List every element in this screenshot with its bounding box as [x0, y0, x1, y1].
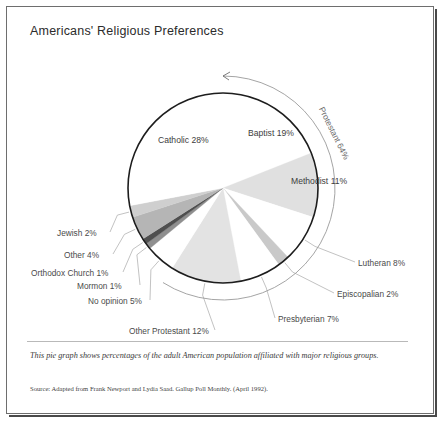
leader-line-jewish: [110, 212, 129, 232]
slice-label-methodist: Methodist 11%: [291, 176, 347, 186]
leader-line-no-opinion: [150, 261, 159, 300]
slice-label-lutheran: Lutheran 8%: [358, 258, 405, 268]
slice-label-jewish: Jewish 2%: [57, 228, 97, 238]
leader-line-lutheran: [305, 240, 355, 262]
pie-slice-catholic: [128, 93, 223, 206]
caption-divider: [27, 341, 408, 342]
figure-caption: This pie graph shows percentages of the …: [30, 350, 405, 362]
leader-line-presbyterian: [262, 277, 276, 318]
slice-label-presbyterian: Presbyterian 7%: [278, 314, 339, 324]
protestant-bracket-label: Protestant 64%: [317, 105, 352, 161]
leader-line-mormon: [137, 248, 147, 286]
slice-label-other: Other 4%: [64, 250, 99, 260]
slice-label-no-opinion: No opinion 5%: [88, 296, 142, 306]
leader-line-other-protestant: [203, 283, 215, 330]
figure-page: Americans' Religious Preferences Protest…: [0, 0, 442, 422]
slice-label-baptist: Baptist 19%: [248, 128, 294, 138]
figure-source: Source: Adapted from Frank Newport and L…: [30, 385, 405, 392]
leader-line-episcopalian: [285, 263, 334, 293]
pie-slices: [128, 93, 318, 283]
leader-line-other: [113, 229, 135, 254]
slice-label-mormon: Mormon 1%: [77, 281, 122, 291]
slice-label-catholic: Catholic 28%: [158, 135, 209, 145]
leader-line-orthodox-church: [123, 243, 143, 273]
slice-label-orthodox: Orthodox Church 1%: [31, 268, 108, 278]
slice-label-episcopalian: Episcopalian 2%: [337, 289, 398, 299]
slice-label-other-protestant: Other Protestant 12%: [129, 326, 209, 336]
